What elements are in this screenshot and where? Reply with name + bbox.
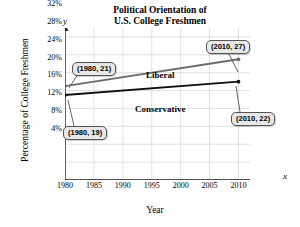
y-axis-letter: y: [63, 16, 67, 26]
chart-figure: Political Orientation of U.S. College Fr…: [0, 0, 300, 227]
x-axis-title: Year: [60, 205, 250, 215]
x-tick-label: 1995: [144, 181, 160, 190]
annotation-callout: (1980, 21): [72, 62, 116, 76]
annotation-callout: (1980, 19): [63, 126, 107, 140]
y-tick-label: 28%: [47, 17, 62, 26]
x-axis-tick-labels: 1980198519901995200020052010: [40, 181, 290, 197]
data-point-conservative: [237, 80, 241, 84]
chart-title-line-2: U.S. College Freshmen: [60, 16, 260, 27]
x-tick-label: 1980: [57, 181, 73, 190]
chart-title: Political Orientation of U.S. College Fr…: [60, 5, 260, 27]
y-tick-label: 4%: [51, 124, 62, 133]
y-tick-label: 12%: [47, 88, 62, 97]
x-tick-label: 2010: [230, 181, 246, 190]
data-point-liberal: [65, 84, 67, 88]
series-label-conservative: Conservative: [135, 104, 186, 114]
x-tick-label: 2000: [173, 181, 189, 190]
x-tick-label: 1990: [115, 181, 131, 190]
series-label-liberal: Liberal: [146, 70, 175, 80]
y-tick-label: 24%: [47, 35, 62, 44]
y-tick-label: 20%: [47, 53, 62, 62]
y-tick-label: 16%: [47, 70, 62, 79]
y-tick-label: 8%: [51, 106, 62, 115]
x-tick-label: 1985: [86, 181, 102, 190]
annotation-callout: (2010, 27): [206, 40, 250, 54]
data-point-conservative: [65, 93, 67, 97]
chart-title-line-1: Political Orientation of: [60, 5, 260, 16]
x-tick-label: 2005: [202, 181, 218, 190]
y-axis-arrow: [65, 28, 68, 31]
y-tick-label: 32%: [47, 0, 62, 8]
data-point-liberal: [237, 57, 241, 61]
x-axis-letter: x: [283, 171, 287, 181]
y-axis-tick-labels: 4%8%12%16%20%24%28%32%: [28, 0, 62, 180]
annotation-callout: (2010, 22): [231, 112, 275, 126]
